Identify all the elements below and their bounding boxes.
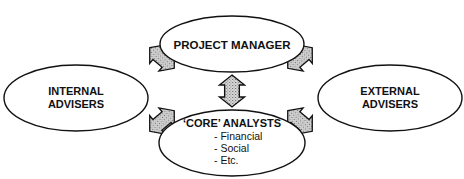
node-core-analysts: ‘CORE’ ANALYSTS - Financial - Social - E…	[159, 110, 305, 176]
node-project-manager: PROJECT MANAGER	[160, 16, 304, 72]
core-item-social: - Social	[214, 142, 249, 154]
label-internal: INTERNAL	[48, 85, 104, 97]
double-arrow-icon	[219, 75, 244, 107]
arrow-pm-core	[219, 75, 244, 107]
core-item-etc: - Etc.	[214, 154, 239, 166]
core-item-financial: - Financial	[214, 130, 262, 142]
project-team-diagram: PROJECT MANAGER INTERNAL ADVISERS EXTERN…	[0, 0, 464, 179]
label-internal-advisers: ADVISERS	[48, 98, 104, 110]
node-external-advisers: EXTERNAL ADVISERS	[318, 65, 462, 131]
label-core-analysts: ‘CORE’ ANALYSTS	[183, 117, 281, 129]
node-internal-advisers: INTERNAL ADVISERS	[4, 65, 148, 131]
label-project-manager: PROJECT MANAGER	[174, 39, 292, 51]
label-external-advisers: ADVISERS	[362, 98, 418, 110]
label-external: EXTERNAL	[360, 85, 420, 97]
